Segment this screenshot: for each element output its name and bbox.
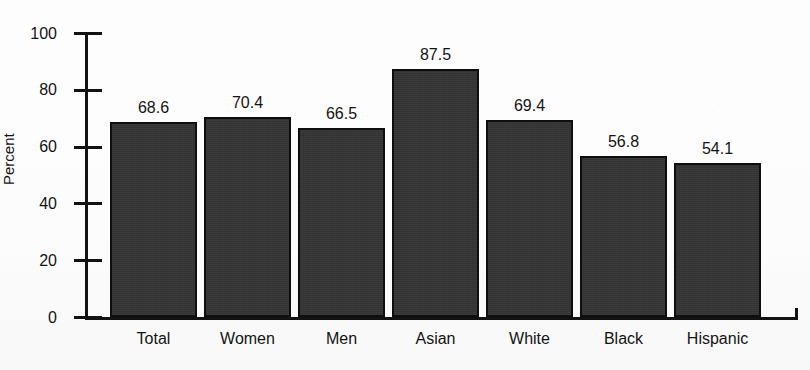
category-label-black: Black — [604, 331, 643, 347]
bar-men: 66.5 — [298, 128, 385, 317]
x-axis-end-tick — [795, 308, 798, 320]
plot-area: 020406080100 68.670.466.587.569.456.854.… — [85, 33, 795, 317]
bar-value-label: 66.5 — [326, 106, 357, 122]
bar-chart: 020406080100 68.670.466.587.569.456.854.… — [0, 0, 810, 370]
y-tick-label: 20 — [39, 253, 57, 269]
category-label-total: Total — [137, 331, 171, 347]
y-tick-label: 100 — [30, 26, 57, 42]
y-tick-80: 80 — [74, 89, 102, 92]
bar-value-label: 87.5 — [420, 47, 451, 63]
y-tick-label: 60 — [39, 139, 57, 155]
category-label-men: Men — [326, 331, 357, 347]
category-label-white: White — [509, 331, 550, 347]
category-label-women: Women — [220, 331, 275, 347]
y-tick-0: 0 — [74, 316, 102, 319]
bar-value-label: 69.4 — [514, 98, 545, 114]
bar-hispanic: 54.1 — [674, 163, 761, 317]
category-label-asian: Asian — [415, 331, 455, 347]
y-tick-40: 40 — [74, 202, 102, 205]
bar-asian: 87.5 — [392, 69, 479, 318]
bar-total: 68.6 — [110, 122, 197, 317]
y-tick-label: 0 — [48, 310, 57, 326]
y-axis-line — [85, 33, 88, 317]
y-tick-20: 20 — [74, 259, 102, 262]
bar-women: 70.4 — [204, 117, 291, 317]
bar-black: 56.8 — [580, 156, 667, 317]
bar-value-label: 56.8 — [608, 134, 639, 150]
y-axis-title: Percent — [0, 133, 17, 185]
y-tick-label: 40 — [39, 196, 57, 212]
bar-value-label: 70.4 — [232, 95, 263, 111]
y-tick-label: 80 — [39, 82, 57, 98]
bar-white: 69.4 — [486, 120, 573, 317]
y-tick-100: 100 — [74, 32, 102, 35]
y-tick-60: 60 — [74, 146, 102, 149]
x-axis-line — [85, 317, 798, 320]
bar-value-label: 54.1 — [702, 141, 733, 157]
category-label-hispanic: Hispanic — [687, 331, 748, 347]
bar-value-label: 68.6 — [138, 100, 169, 116]
